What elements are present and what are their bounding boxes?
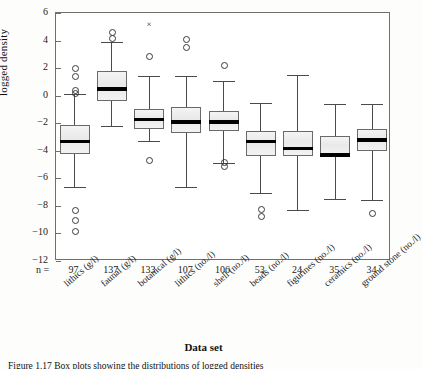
plot-frame: ×: [55, 12, 390, 260]
whisker-lower-cap: [138, 141, 160, 142]
y-tick-label: −10: [14, 227, 48, 237]
plot-area: ×: [56, 13, 389, 259]
outlier-point[interactable]: [183, 36, 190, 43]
y-tick-label: 4: [14, 35, 48, 45]
whisker-upper-stem: [372, 104, 373, 129]
outlier-point[interactable]: [221, 163, 228, 170]
whisker-lower-cap: [101, 126, 123, 127]
median-line: [209, 120, 239, 124]
extreme-outlier-point[interactable]: ×: [145, 20, 153, 28]
y-axis-title: logged density: [0, 0, 9, 96]
whisker-upper-stem: [111, 42, 112, 71]
median-line: [357, 138, 387, 142]
outlier-point[interactable]: [72, 217, 79, 224]
whisker-lower-cap: [64, 187, 86, 188]
outlier-point[interactable]: [109, 35, 116, 42]
whisker-upper-cap: [250, 103, 272, 104]
whisker-lower-cap: [361, 200, 383, 201]
box-plot-group[interactable]: [60, 13, 90, 261]
box-plot-group[interactable]: [246, 13, 276, 261]
median-line: [60, 140, 90, 144]
outlier-point[interactable]: [146, 157, 153, 164]
median-line: [283, 147, 313, 151]
whisker-lower-stem: [372, 151, 373, 201]
y-tick-label: 6: [14, 7, 48, 17]
whisker-lower-cap: [287, 210, 309, 211]
whisker-lower-stem: [260, 156, 261, 193]
box-plot-group[interactable]: [357, 13, 387, 261]
outlier-point[interactable]: [146, 53, 153, 60]
figure-caption: Figure 1.17 Box plots showing the distri…: [8, 361, 407, 369]
whisker-upper-stem: [149, 76, 150, 109]
whisker-upper-cap: [101, 42, 123, 43]
outlier-point[interactable]: [258, 213, 265, 220]
whisker-lower-stem: [335, 156, 336, 199]
outlier-point[interactable]: [258, 206, 265, 213]
y-tick-label: 0: [14, 90, 48, 100]
whisker-upper-cap: [324, 104, 346, 105]
whisker-upper-stem: [297, 75, 298, 131]
median-line: [171, 120, 201, 124]
whisker-lower-stem: [74, 154, 75, 187]
outlier-point[interactable]: [72, 228, 79, 235]
whisker-upper-stem: [186, 76, 187, 106]
box-plot-group[interactable]: [283, 13, 313, 261]
median-line: [320, 153, 350, 157]
box-plot-group[interactable]: [171, 13, 201, 261]
whisker-lower-stem: [111, 101, 112, 126]
whisker-lower-stem: [297, 156, 298, 210]
whisker-upper-stem: [335, 104, 336, 136]
y-tick-label: 2: [14, 62, 48, 72]
box-plot-group[interactable]: [209, 13, 239, 261]
y-tick-label: −6: [14, 172, 48, 182]
median-line: [134, 118, 164, 122]
whisker-lower-stem: [149, 129, 150, 141]
outlier-point[interactable]: [369, 210, 376, 217]
whisker-upper-stem: [74, 94, 75, 124]
outlier-point[interactable]: [72, 207, 79, 214]
outlier-point[interactable]: [72, 73, 79, 80]
whisker-upper-cap: [138, 76, 160, 77]
whisker-upper-cap: [361, 104, 383, 105]
y-tick-label: −2: [14, 117, 48, 127]
whisker-lower-cap: [250, 193, 272, 194]
box-plot-group[interactable]: [320, 13, 350, 261]
whisker-upper-stem: [223, 81, 224, 111]
median-line: [246, 140, 276, 144]
outlier-point[interactable]: [72, 90, 79, 97]
box-iqr[interactable]: [97, 71, 127, 101]
whisker-upper-cap: [175, 76, 197, 77]
y-tick-label: −4: [14, 145, 48, 155]
y-tick-label: −8: [14, 200, 48, 210]
whisker-lower-cap: [324, 199, 346, 200]
n-prefix-label: n =: [36, 264, 49, 275]
outlier-point[interactable]: [72, 65, 79, 72]
whisker-lower-stem: [186, 133, 187, 187]
box-plot-group[interactable]: ×: [134, 13, 164, 261]
outlier-point[interactable]: [221, 62, 228, 69]
outlier-point[interactable]: [183, 44, 190, 51]
median-line: [97, 87, 127, 91]
box-iqr[interactable]: [283, 131, 313, 156]
x-axis-title: Data set: [0, 341, 407, 353]
y-tick-mark: [56, 261, 61, 262]
whisker-upper-cap: [287, 75, 309, 76]
whisker-lower-cap: [175, 187, 197, 188]
whisker-upper-stem: [260, 103, 261, 132]
whisker-upper-cap: [213, 81, 235, 82]
box-iqr[interactable]: [246, 131, 276, 156]
box-plot-group[interactable]: [97, 13, 127, 261]
